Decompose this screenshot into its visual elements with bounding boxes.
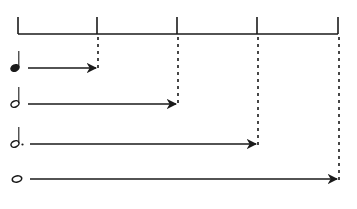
dotted-half-note-icon: Dotted half note [10, 127, 24, 148]
beat-guide-lines [98, 37, 339, 182]
quarter-note-icon: Quarter note [10, 51, 20, 72]
whole-note-icon: Whole note [12, 175, 23, 183]
half-note-icon: Half note [10, 87, 20, 108]
row-quarter-note: Quarter note [10, 51, 96, 72]
beat-timeline [18, 17, 338, 34]
note-duration-diagram: Quarter noteHalf noteDotted half noteWho… [0, 0, 357, 209]
row-dotted-half-note: Dotted half note [10, 127, 256, 148]
row-whole-note: Whole note [12, 175, 337, 183]
row-half-note: Half note [10, 87, 176, 108]
note-rows: Quarter noteHalf noteDotted half noteWho… [10, 51, 337, 183]
note-head [12, 175, 23, 183]
augmentation-dot [21, 143, 23, 145]
